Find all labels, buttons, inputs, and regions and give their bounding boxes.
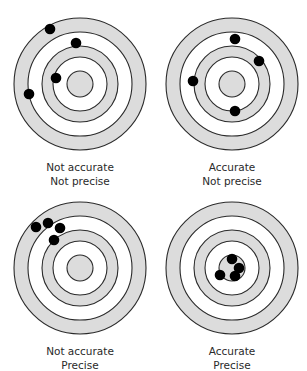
caption-precision: Precise [157, 358, 307, 371]
hit-dot [227, 254, 238, 265]
hit-dot [215, 270, 226, 281]
hit-dot [230, 271, 241, 282]
target-bottom-right-icon [0, 0, 307, 371]
caption-accuracy: Accurate [157, 344, 307, 358]
target-caption: Accurate Precise [157, 344, 307, 371]
